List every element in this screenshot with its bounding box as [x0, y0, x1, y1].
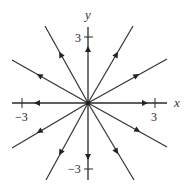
- arrow-icon-lower-left-shallow: [35, 127, 43, 135]
- arrow-icon-upper-right-steep: [112, 50, 120, 58]
- arrow-icon-upper-left-steep: [56, 50, 64, 58]
- arrow-icon-positive-y: [85, 46, 91, 52]
- x-tick-label-neg3: −3: [15, 110, 28, 124]
- trajectory-upper-right-steep: [88, 26, 133, 103]
- arrow-icon-negative-x: [34, 100, 40, 106]
- trajectory-lower-left-steep: [46, 103, 88, 180]
- trajectory-lower-right-steep: [88, 103, 134, 180]
- y-tick-label-pos3: 3: [75, 31, 81, 45]
- arrow-icon-positive-x: [142, 100, 148, 106]
- trajectory-upper-right-shallow: [88, 59, 167, 103]
- origin-point: [86, 101, 90, 105]
- arrow-icon-upper-left-shallow: [35, 71, 43, 79]
- arrow-icon-lower-left-steep: [56, 149, 64, 157]
- arrow-icon-lower-right-shallow: [134, 126, 142, 134]
- x-tick-label-pos3: 3: [151, 110, 157, 124]
- axis-labels: x y −3 3 3 −3: [15, 7, 180, 176]
- arrow-icon-upper-right-shallow: [133, 71, 141, 79]
- phase-portrait-diagram: x y −3 3 3 −3: [0, 0, 192, 193]
- x-axis-label: x: [173, 95, 180, 110]
- y-tick-label-neg3: −3: [68, 162, 81, 176]
- y-axis-label: y: [83, 7, 91, 22]
- arrow-icon-negative-y: [85, 154, 91, 160]
